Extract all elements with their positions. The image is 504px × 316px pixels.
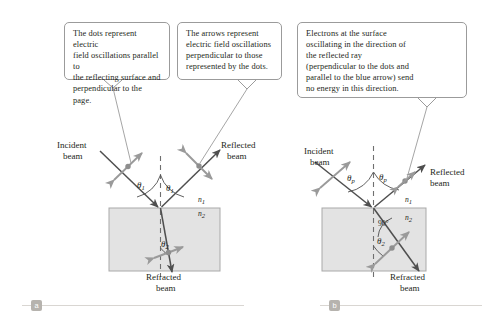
label-theta2-refracted-a: θ2 (161, 239, 169, 253)
callout-2-line-3: perpendicular to those (186, 50, 274, 61)
callout-box-electrons: Electrons at the surface oscillating in … (297, 22, 467, 98)
label-refracted-beam-b-line2: beam (400, 283, 420, 294)
label-reflected-beam-b-line2: beam (430, 178, 450, 189)
label-incident-beam-b-line2: beam (310, 157, 330, 168)
callout-1-line-3: the reflecting surface and (73, 72, 162, 83)
label-theta1-reflected-a: θ1 (166, 183, 174, 197)
callout-1-line-4: perpendicular to the page. (73, 83, 162, 105)
leader-callout-2 (238, 80, 256, 89)
label-thetap-reflected-b: θp (379, 172, 387, 186)
label-thetap-incident-b: θp (347, 173, 355, 187)
dot-marker-reflected-a (196, 163, 201, 168)
label-right-angle-b: 90° (378, 219, 389, 230)
theta-sub: 1 (141, 184, 144, 191)
label-refracted-beam-a-line1: Refracted (146, 272, 181, 283)
label-theta1-incident-a: θ1 (137, 180, 145, 194)
label-reflected-beam-b-line1: Reflected (430, 167, 464, 178)
figure-stage: The dots represent electric field oscill… (0, 0, 504, 316)
theta-sub: p (351, 177, 354, 184)
oscillation-arrow-reflected-b (398, 172, 415, 187)
label-incident-beam-b-line1: Incident (304, 146, 334, 157)
dot-marker-incident-a (125, 164, 130, 169)
callout-3-line-4: (perpendicular to the dots and (306, 61, 459, 72)
n-sub: 1 (409, 198, 412, 205)
theta-sub: 1 (170, 187, 173, 194)
label-refracted-beam-b-line1: Refracted (390, 272, 425, 283)
callout-3-line-6: no energy in this direction. (306, 83, 459, 94)
callout-2-line-4: represented by the dots. (186, 61, 274, 72)
panel-rule-a (22, 305, 244, 306)
callout-3-line-1: Electrons at the surface (306, 28, 459, 39)
n-sub: 2 (202, 212, 205, 219)
label-refracted-beam-a-line2: beam (156, 283, 176, 294)
callout-2-line-1: The arrows represent (186, 28, 274, 39)
leader-line-callout-3 (407, 107, 427, 178)
dot-marker-refracted-b (389, 245, 394, 250)
label-n1-b: n1 (405, 195, 412, 208)
label-incident-beam-a-line1: Incident (57, 140, 87, 151)
theta-sub: 2 (165, 243, 168, 250)
panel-rule-b (320, 305, 482, 306)
n-sub: 1 (202, 198, 205, 205)
n-sub: 2 (409, 216, 412, 223)
label-n2-b: n2 (405, 213, 412, 226)
panel-badge-a: a (31, 300, 42, 311)
callout-box-arrows: The arrows represent electric field osci… (177, 22, 282, 80)
callout-1-line-2: field oscillations parallel to (73, 50, 162, 72)
theta-sub: 2 (381, 240, 384, 247)
callout-3-line-3: the reflected ray (306, 50, 459, 61)
callout-1-line-1: The dots represent electric (73, 28, 162, 50)
incident-ray-a (100, 151, 158, 207)
label-reflected-beam-a-line1: Reflected (221, 140, 255, 151)
theta-sub: p (383, 176, 386, 183)
label-n1-a: n1 (198, 195, 205, 208)
callout-3-line-5: parallel to the blue arrow) send (306, 72, 459, 83)
label-reflected-beam-a-line2: beam (227, 151, 247, 162)
callout-box-dots: The dots represent electric field oscill… (64, 22, 170, 80)
label-theta2-refracted-b: θ2 (377, 236, 385, 250)
callout-3-line-2: oscillating in the direction of (306, 39, 459, 50)
callout-2-line-2: electric field oscillations (186, 39, 274, 50)
panel-b-graphics (315, 146, 426, 277)
label-incident-beam-a-line2: beam (63, 151, 83, 162)
label-n2-a: n2 (198, 209, 205, 222)
panel-badge-b: b (329, 300, 340, 311)
leader-callout-3 (418, 98, 436, 107)
